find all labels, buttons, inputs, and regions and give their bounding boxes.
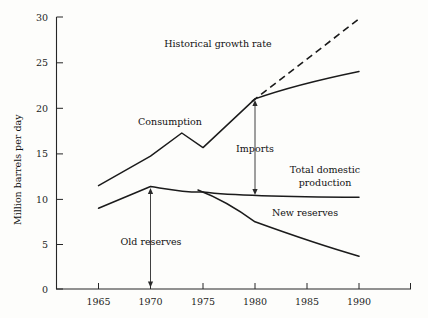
axes-group: 30 25 20 15 10 5 0 1965 1970 1975 1980 1…	[12, 12, 411, 308]
series-historical-growth-rate	[252, 19, 359, 102]
y-tick-label-25: 25	[36, 57, 48, 68]
y-tick-label-30: 30	[36, 12, 48, 23]
x-tick-label-1990: 1990	[347, 296, 371, 307]
x-tick-label-1985: 1985	[295, 296, 319, 307]
chart-annotations: Historical growth rate Consumption Impor…	[121, 38, 361, 247]
x-tick-label-1970: 1970	[138, 296, 162, 307]
annotation-old-reserves: Old reserves	[121, 236, 182, 247]
imports-arrowhead-down	[252, 189, 257, 195]
y-tick-label-5: 5	[42, 239, 48, 250]
data-curves	[99, 19, 360, 256]
old-reserves-arrowhead-down	[148, 282, 153, 288]
annotation-total-domestic-production-line2: production	[299, 177, 352, 188]
y-axis-title: Million barrels per day	[12, 114, 23, 225]
annotation-total-domestic-production-line1: Total domestic	[290, 164, 360, 175]
annotation-imports: Imports	[236, 143, 274, 154]
annotation-historical-growth-rate: Historical growth rate	[164, 38, 272, 49]
x-tick-label-1965: 1965	[86, 296, 110, 307]
annotation-new-reserves: New reserves	[272, 207, 338, 218]
y-tick-label-15: 15	[36, 148, 48, 159]
old-reserves-arrowhead-up	[148, 188, 153, 194]
y-tick-label-10: 10	[36, 194, 48, 205]
y-axis-ticks	[57, 17, 64, 289]
x-axis-ticks	[99, 283, 411, 289]
annotation-arrows	[148, 100, 258, 288]
chart-svg: 30 25 20 15 10 5 0 1965 1970 1975 1980 1…	[0, 0, 428, 318]
y-tick-label-20: 20	[36, 103, 48, 114]
series-new-reserves	[198, 190, 359, 256]
y-tick-label-0: 0	[42, 284, 48, 295]
chart-figure: 30 25 20 15 10 5 0 1965 1970 1975 1980 1…	[0, 0, 428, 318]
x-tick-label-1980: 1980	[243, 296, 267, 307]
annotation-consumption: Consumption	[138, 116, 202, 127]
x-tick-label-1975: 1975	[191, 296, 215, 307]
